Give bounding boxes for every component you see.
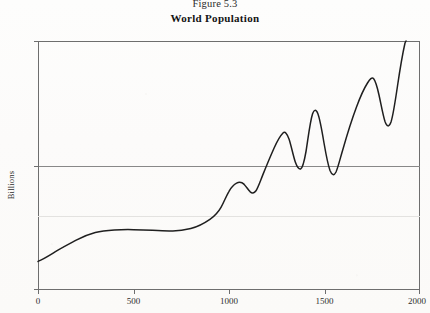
xtick-label-1000: 1000 [220,296,238,306]
tick-x-2000 [419,290,420,294]
population-curve-path [38,41,406,261]
xtick-label-500: 500 [127,296,141,306]
xtick-label-0: 0 [36,296,41,306]
xtick-label-1500: 1500 [316,296,334,306]
tick-x-1000 [229,290,230,294]
population-line-series [38,41,420,290]
figure-number-label: Figure 5.3 [0,0,430,11]
y-axis-title: Billions [6,171,16,200]
xtick-label-2000: 2000 [408,296,426,306]
page-title: World Population [0,12,430,25]
tick-x-0 [38,290,39,294]
figure-title-block: Figure 5.3 World Population [0,0,430,24]
tick-x-1500 [325,290,326,294]
tick-x-500 [134,290,135,294]
chart-plot-area [38,41,420,290]
